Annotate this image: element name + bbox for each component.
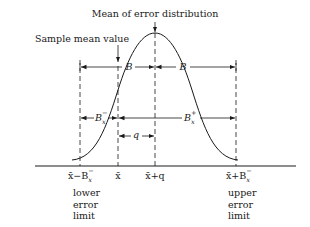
upper-error-limit-label: upper error limit: [228, 187, 256, 222]
tick-lower-limit: x̄−B−x: [68, 171, 88, 181]
bias-label-left: B: [126, 62, 133, 72]
tick-sample-mean: x̄: [115, 171, 120, 181]
sample-mean-value-label: Sample mean value: [35, 34, 129, 44]
lower-interval-label: B−x: [95, 113, 102, 123]
lower-error-limit-label: lower error limit: [73, 187, 100, 222]
tick-upper-limit: x̄+B−x: [226, 171, 246, 181]
tick-mean-plus-q: x̄+q: [145, 171, 164, 181]
upper-interval-label: B+x: [184, 113, 191, 123]
bias-label-right: B: [180, 62, 187, 72]
mean-of-error-distribution-label: Mean of error distribution: [92, 9, 219, 19]
offset-label: q: [133, 130, 139, 140]
